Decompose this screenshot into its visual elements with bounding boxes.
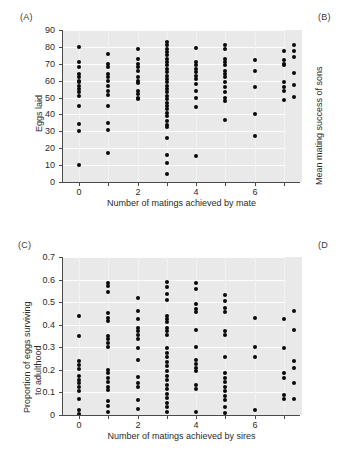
x-axis-tick-label: 4 (181, 421, 211, 430)
data-point (223, 118, 227, 122)
multi-panel-scatter-figure: (A) Eggs laid Number of matings achieved… (0, 0, 345, 472)
data-point (223, 63, 227, 67)
data-point (77, 45, 81, 49)
data-point (136, 296, 140, 300)
data-point (165, 333, 169, 337)
data-point (136, 346, 140, 350)
data-point (292, 83, 296, 87)
x-axis-tick (167, 416, 168, 419)
data-point (106, 399, 110, 403)
data-point (106, 84, 110, 88)
panel-d-label: (D (318, 240, 328, 250)
y-axis-tick (59, 280, 62, 281)
data-point (194, 369, 198, 373)
y-axis-tick (59, 415, 62, 416)
panel-c-y-axis-line (62, 257, 63, 416)
gridline-horizontal (63, 370, 300, 371)
data-point (136, 337, 140, 341)
data-point (194, 154, 198, 158)
data-point (106, 65, 110, 69)
gridline-vertical (138, 30, 139, 182)
data-point (253, 69, 257, 73)
data-point (77, 397, 81, 401)
data-point (194, 96, 198, 100)
y-axis-tick (59, 182, 62, 183)
x-axis-tick-label: 6 (240, 188, 270, 197)
data-point (223, 75, 227, 79)
panel-c-x-axis-title: Number of matings achieved by sires (63, 431, 300, 441)
data-point (194, 287, 198, 291)
data-point (292, 43, 296, 47)
y-axis-tick (59, 302, 62, 303)
x-axis-tick-label: 2 (123, 188, 153, 197)
data-point (194, 310, 198, 314)
panel-a-x-axis-title: Number of matings achieved by mate (63, 198, 300, 208)
gridline-horizontal (63, 325, 300, 326)
gridline-vertical (225, 30, 226, 182)
data-point (77, 374, 81, 378)
data-point (292, 359, 296, 363)
data-point (77, 104, 81, 108)
data-point (136, 358, 140, 362)
data-point (292, 95, 296, 99)
data-point (106, 52, 110, 56)
x-axis-tick (79, 416, 80, 419)
x-axis-tick (225, 416, 226, 419)
data-point (292, 55, 296, 59)
x-axis-tick-label: 0 (64, 188, 94, 197)
y-axis-tick-label: 50 (21, 94, 55, 103)
data-point (136, 57, 140, 61)
data-point (223, 394, 227, 398)
gridline-horizontal (63, 30, 300, 31)
data-point (77, 367, 81, 371)
data-point (136, 81, 140, 85)
data-point (165, 351, 169, 355)
gridline-horizontal (63, 148, 300, 149)
data-point (253, 408, 257, 412)
data-point (223, 99, 227, 103)
data-point (194, 46, 198, 50)
data-point (165, 401, 169, 405)
data-point (136, 398, 140, 402)
panel-d-plot-area (286, 257, 302, 415)
panel-b-label: (B) (318, 12, 331, 22)
data-point (194, 302, 198, 306)
data-point (165, 285, 169, 289)
data-point (106, 371, 110, 375)
y-axis-tick-label: 90 (21, 26, 55, 35)
data-point (136, 317, 140, 321)
y-axis-tick-label: 0.5 (21, 298, 55, 307)
gridline-horizontal (63, 114, 300, 115)
x-axis-tick-label: 2 (123, 421, 153, 430)
data-point (136, 385, 140, 389)
data-point (194, 410, 198, 414)
data-point (165, 161, 169, 165)
data-point (165, 387, 169, 391)
data-point (106, 380, 110, 384)
y-axis-tick-label: 0.1 (21, 388, 55, 397)
panel-c-label: (C) (18, 240, 31, 250)
gridline-horizontal (63, 280, 300, 281)
data-point (165, 320, 169, 324)
gridline-vertical (255, 257, 256, 415)
data-point (136, 333, 140, 337)
data-point (194, 387, 198, 391)
y-axis-tick-label: 30 (21, 127, 55, 136)
y-axis-tick-label: 70 (21, 60, 55, 69)
data-point (136, 407, 140, 411)
y-axis-tick (59, 47, 62, 48)
data-point (165, 114, 169, 118)
data-point (106, 284, 110, 288)
data-point (194, 89, 198, 93)
data-point (223, 85, 227, 89)
panel-c-x-axis-line (62, 415, 300, 416)
data-point (77, 94, 81, 98)
data-point (223, 310, 227, 314)
x-axis-tick (138, 183, 139, 186)
gridline-horizontal (63, 47, 300, 48)
data-point (194, 82, 198, 86)
gridline-horizontal (63, 131, 300, 132)
panel-d: (D (300, 235, 345, 472)
data-point (106, 404, 110, 408)
data-point (223, 333, 227, 337)
